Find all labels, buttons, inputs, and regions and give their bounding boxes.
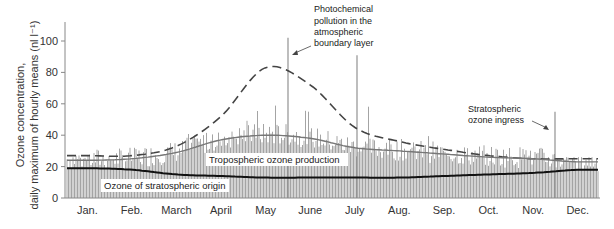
y-ticks: 020406080100	[40, 35, 65, 204]
strat-ingress-line-1: Stratospheric	[468, 104, 522, 114]
x-month-label: Dec.	[566, 204, 589, 216]
strat-origin-label: Ozone of stratospheric origin	[104, 180, 225, 191]
x-month-label: Sep.	[433, 204, 456, 216]
x-month-label: April	[210, 204, 232, 216]
tropo-label: Tropospheric ozone production	[209, 154, 340, 165]
x-month-label: June	[298, 204, 322, 216]
y-tick-label: 20	[46, 161, 58, 173]
x-month-label: Nov.	[522, 204, 544, 216]
arrowhead-icon	[292, 50, 298, 55]
ylabel-line-2: daily maximum of hourly means (nl l⁻¹)	[28, 21, 40, 210]
photochem-line-1: Photochemical	[314, 4, 373, 14]
y-tick-label: 0	[52, 192, 58, 204]
x-month-label: Oct.	[478, 204, 498, 216]
x-month-label: Aug.	[388, 204, 411, 216]
x-month-label: Feb.	[121, 204, 143, 216]
y-axis-label: Ozone concentration, daily maximum of ho…	[14, 21, 40, 210]
tropo-label-box: Tropospheric ozone production	[206, 153, 348, 166]
y-tick-label: 40	[46, 129, 58, 141]
arrowhead-icon	[543, 125, 549, 130]
y-tick-label: 100	[40, 35, 58, 47]
x-month-label: May	[255, 204, 276, 216]
photochem-line-4: boundary layer	[314, 38, 374, 48]
photochem-line-2: pollution in the	[314, 16, 372, 26]
ylabel-line-1: Ozone concentration,	[14, 63, 26, 168]
x-month-label: March	[161, 204, 192, 216]
photochem-line-3: atmospheric	[314, 27, 364, 37]
x-month-labels: Jan.Feb.MarchAprilMayJuneJulyAug.Sep.Oct…	[77, 204, 589, 216]
ozone-chart: Tropospheric ozone production Ozone of s…	[0, 0, 614, 229]
y-tick-label: 80	[46, 66, 58, 78]
y-tick-label: 60	[46, 98, 58, 110]
photochem-annotation: Photochemical pollution in the atmospher…	[292, 4, 374, 55]
strat-label-box: Ozone of stratospheric origin	[101, 179, 229, 192]
strat-ingress-annotation: Stratospheric ozone ingress	[468, 104, 549, 130]
strat-ingress-line-2: ozone ingress	[468, 115, 525, 125]
photochem-arrow	[295, 46, 311, 53]
x-month-label: Jan.	[77, 204, 98, 216]
x-month-label: July	[345, 204, 365, 216]
